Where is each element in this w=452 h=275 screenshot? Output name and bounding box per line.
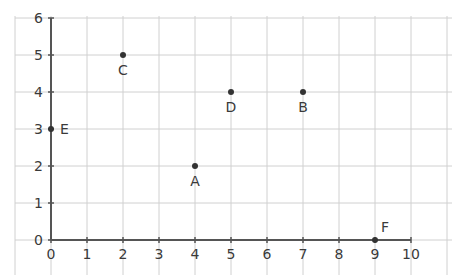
y-tick-label: 5 [34,47,43,63]
point-d [228,89,234,95]
point-label-b: B [298,99,308,115]
y-tick-label: 2 [34,158,43,174]
point-b [300,89,306,95]
point-c [120,52,126,58]
x-tick-label: 9 [371,246,380,262]
x-tick-label: 1 [83,246,92,262]
x-tick-label: 2 [119,246,128,262]
y-tick-label: 0 [34,232,43,248]
point-label-c: C [118,62,128,78]
axes [48,18,411,243]
x-tick-label: 8 [335,246,344,262]
x-tick-label: 3 [155,246,164,262]
data-points: ABCDEF [48,52,389,243]
point-e [48,126,54,132]
y-tick-label: 3 [34,121,43,137]
x-tick-label: 6 [263,246,272,262]
y-tick-label: 6 [34,10,43,26]
x-tick-label: 5 [227,246,236,262]
grid-lines [15,16,452,275]
y-tick-label: 1 [34,195,43,211]
x-tick-label: 7 [299,246,308,262]
tick-labels: 0123456789100123456 [34,10,420,262]
x-tick-label: 4 [191,246,200,262]
x-tick-label: 10 [402,246,420,262]
point-label-e: E [60,121,69,137]
x-tick-label: 0 [47,246,56,262]
coordinate-grid-chart: 0123456789100123456 ABCDEF [0,0,452,275]
point-label-a: A [190,173,200,189]
point-f [372,237,378,243]
y-tick-label: 4 [34,84,43,100]
point-label-f: F [381,219,389,235]
point-a [192,163,198,169]
point-label-d: D [226,99,237,115]
